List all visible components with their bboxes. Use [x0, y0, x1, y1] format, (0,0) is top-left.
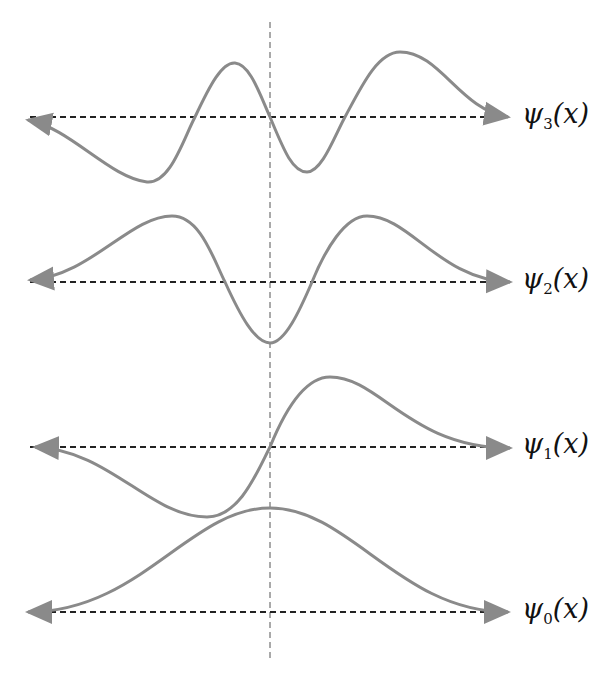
label-argument: (x)	[553, 593, 589, 624]
label-argument: (x)	[553, 428, 589, 459]
quantum-number: 2	[543, 280, 553, 298]
quantum-number: 1	[543, 445, 553, 463]
psi0-curve	[28, 508, 508, 612]
label-argument: (x)	[553, 263, 589, 294]
wavefunction-diagram: ψ3(x)ψ2(x)ψ1(x)ψ0(x)	[0, 0, 614, 683]
psi-symbol: ψ	[522, 98, 543, 129]
psi0-label: ψ0(x)	[522, 595, 589, 627]
psi2-label: ψ2(x)	[522, 265, 589, 297]
psi1-label: ψ1(x)	[522, 430, 589, 462]
label-argument: (x)	[553, 98, 589, 129]
psi3-label: ψ3(x)	[522, 100, 589, 132]
quantum-number: 3	[543, 115, 553, 133]
psi-symbol: ψ	[522, 263, 543, 294]
quantum-number: 0	[543, 610, 553, 628]
psi-symbol: ψ	[522, 428, 543, 459]
psi-symbol: ψ	[522, 593, 543, 624]
